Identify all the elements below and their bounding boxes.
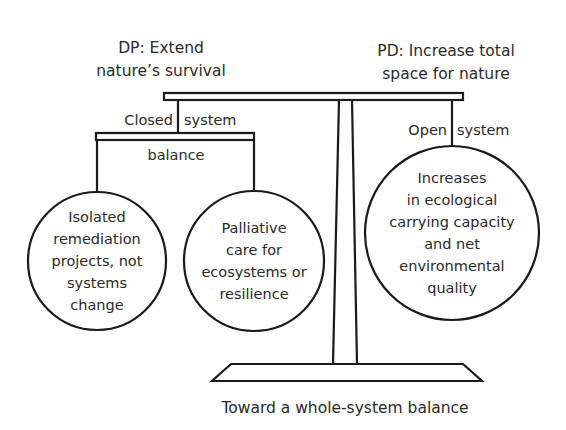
right-branch: Open system Increases in ecological carr…: [365, 100, 539, 320]
circle-text-line: Palliative: [221, 220, 286, 236]
open-label: Open: [408, 122, 447, 138]
circle-text-line: carrying capacity: [389, 214, 515, 230]
circle-text-line: quality: [427, 280, 477, 296]
circle-text-line: change: [70, 297, 123, 313]
left-sub-beam: [96, 133, 254, 140]
circle-text-line: systems: [67, 275, 127, 291]
right-title-line-1: PD: Increase total: [377, 42, 514, 60]
circle-text-line: and net: [424, 236, 480, 252]
circle-text-line: remediation: [53, 231, 141, 247]
central-pole: [333, 100, 357, 364]
left-title-line-2: nature’s survival: [96, 62, 225, 80]
main-beam: [164, 93, 463, 100]
circle-text-line: projects, not: [52, 253, 143, 269]
left-branch: Closed system balance Isolated remediati…: [28, 100, 324, 331]
open-system-label: system: [457, 122, 509, 138]
ecological-capacity-circle: Increases in ecological carrying capacit…: [365, 146, 539, 320]
left-title-line-1: DP: Extend: [118, 39, 204, 57]
closed-system-label: system: [184, 112, 236, 128]
balance-label: balance: [147, 147, 204, 163]
circle-text-line: resilience: [219, 286, 288, 302]
right-title: PD: Increase total space for nature: [377, 42, 514, 83]
circle-text-line: environmental: [399, 258, 504, 274]
right-title-line-2: space for nature: [382, 65, 509, 83]
diagram-caption: Toward a whole-system balance: [220, 399, 468, 417]
circle-text-line: ecosystems or: [201, 264, 306, 280]
closed-label: Closed: [124, 112, 173, 128]
circle-shape: [184, 191, 324, 331]
circle-text-line: Isolated: [68, 209, 125, 225]
isolated-remediation-circle: Isolated remediation projects, not syste…: [28, 192, 166, 330]
circle-text-line: care for: [226, 242, 282, 258]
palliative-care-circle: Palliative care for ecosystems or resili…: [184, 191, 324, 331]
balance-scale-diagram: DP: Extend nature’s survival PD: Increas…: [0, 0, 566, 430]
left-title: DP: Extend nature’s survival: [96, 39, 225, 80]
circle-text-line: in ecological: [407, 192, 498, 208]
scale-base: [212, 364, 482, 381]
circle-text-line: Increases: [418, 170, 487, 186]
